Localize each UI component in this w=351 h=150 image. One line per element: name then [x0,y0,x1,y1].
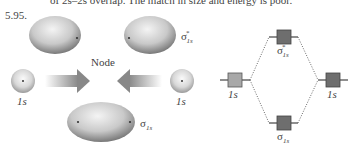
mo-antibonding-label: σ*1s [277,44,289,59]
mo-atomic-label-right: 1s [327,88,337,100]
antibonding-level [277,30,291,44]
arrow-left-icon [117,69,162,93]
atomic-orbital-left [11,69,35,93]
bonding-orbital [67,102,135,142]
antibonding-label: σ*1s [181,30,193,45]
nucleus-dot [128,37,130,39]
atomic-orbital-right [170,69,194,93]
arrow-right-icon [45,69,90,93]
bonding-level [277,116,291,130]
mo-atomic-label-left: 1s [228,88,238,100]
antibonding-orbital [29,16,176,54]
atomic-label-right: 1s [176,95,186,107]
atomic-level-right [326,73,340,87]
antibonding-lobe-right [124,16,176,54]
node-label: Node [91,56,115,68]
atomic-label-left: 1s [17,95,27,107]
atomic-level-left [228,73,242,87]
nucleus-dot [76,37,78,39]
antibonding-lobe-left [29,16,81,54]
mo-bonding-label: σ1s [277,130,289,145]
diagram-canvas [0,0,351,150]
bonding-label: σ1s [140,117,152,132]
